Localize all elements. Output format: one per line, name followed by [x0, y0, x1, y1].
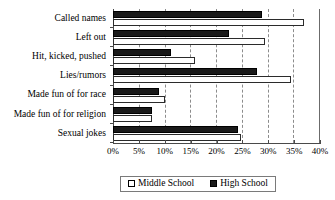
- category-label: Made fun of for religion: [0, 105, 110, 124]
- bar-groups: [113, 9, 319, 143]
- axis-tick: [139, 140, 140, 144]
- legend-entry-high: High School: [210, 179, 268, 189]
- axis-tick-label: 0%: [107, 147, 119, 156]
- axis-tick-label: 10%: [157, 147, 174, 156]
- bar-middle-school: [113, 96, 165, 103]
- plot-area: [113, 9, 320, 143]
- bar-high-school: [113, 126, 238, 133]
- bar-high-school: [113, 30, 229, 37]
- bar-middle-school: [113, 115, 152, 122]
- axis-tick: [113, 140, 114, 144]
- axis-tick: [165, 140, 166, 144]
- axis-tick-label: 30%: [260, 147, 277, 156]
- category-label: Called names: [0, 9, 110, 28]
- legend-swatch-icon: [210, 180, 217, 187]
- axis-tick: [268, 140, 269, 144]
- bar-middle-school: [113, 134, 241, 141]
- chart-legend: Middle SchoolHigh School: [120, 176, 276, 192]
- legend-label: Middle School: [138, 179, 194, 189]
- bar-group: [113, 86, 319, 105]
- axis-tick-label: 15%: [182, 147, 199, 156]
- bar-middle-school: [113, 76, 291, 83]
- axis-tick: [294, 140, 295, 144]
- category-label: Left out: [0, 28, 110, 47]
- bar-group: [113, 66, 319, 85]
- bar-middle-school: [113, 38, 265, 45]
- bar-high-school: [113, 11, 262, 18]
- bar-group: [113, 28, 319, 47]
- category-label: Lies/rumors: [0, 66, 110, 85]
- axis-tick-label: 25%: [234, 147, 251, 156]
- legend-swatch-icon: [128, 180, 135, 187]
- category-label: Made fun of for race: [0, 86, 110, 105]
- axis-tick-label: 5%: [133, 147, 145, 156]
- bar-group: [113, 9, 319, 28]
- bar-high-school: [113, 88, 159, 95]
- axis-tick: [191, 140, 192, 144]
- bar-high-school: [113, 107, 152, 114]
- axis-tick-label: 40%: [312, 147, 329, 156]
- axis-tick-label: 20%: [208, 147, 225, 156]
- bar-group: [113, 105, 319, 124]
- bar-middle-school: [113, 57, 195, 64]
- legend-label: High School: [220, 179, 268, 189]
- axis-tick: [242, 140, 243, 144]
- legend-entry-middle: Middle School: [128, 179, 194, 189]
- bar-middle-school: [113, 19, 304, 26]
- bar-high-school: [113, 68, 257, 75]
- category-axis: Called namesLeft outHit, kicked, pushedL…: [0, 9, 110, 143]
- grouped-bar-chart: Called namesLeft outHit, kicked, pushedL…: [0, 0, 335, 200]
- axis-tick: [320, 140, 321, 144]
- category-label: Hit, kicked, pushed: [0, 47, 110, 66]
- value-axis: 0%5%10%15%20%25%30%35%40%: [113, 143, 320, 165]
- category-label: Sexual jokes: [0, 124, 110, 143]
- bar-group: [113, 47, 319, 66]
- bar-high-school: [113, 49, 171, 56]
- axis-tick-label: 35%: [286, 147, 303, 156]
- axis-tick: [217, 140, 218, 144]
